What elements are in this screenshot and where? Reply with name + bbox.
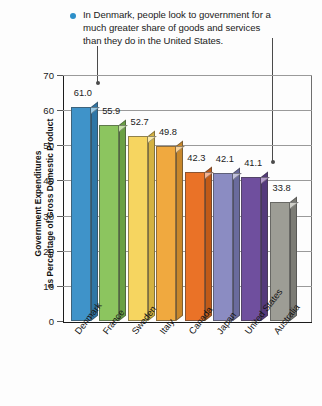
bullet-dot-icon [70,13,76,19]
y-axis-tick [57,286,63,287]
annotation-line-1: In Denmark, people look to government fo… [83,8,271,21]
bar-front-face [156,146,176,321]
y-axis-tick-label: 50 [43,140,54,151]
bar-value-label: 49.8 [159,127,177,137]
bar[interactable]: 42.3 [185,172,205,321]
y-axis-tick-label: 30 [43,210,54,221]
y-axis-title: Government Expenditures as Percentage of… [33,96,56,311]
y-axis-tick [57,180,63,181]
bar-value-label: 42.1 [216,154,234,164]
y-axis-tick [57,75,63,76]
y-axis-tick [57,251,63,252]
bar-value-label: 41.1 [244,158,262,168]
y-axis-tick-label: 70 [43,70,54,81]
bar-front-face [128,136,148,321]
annotation-text: In Denmark, people look to government fo… [83,8,271,48]
annotation-line-2: much greater share of goods and services [83,21,271,34]
bar[interactable]: 61.0 [71,107,91,321]
bar[interactable]: 49.8 [156,146,176,321]
y-axis-tick-label: 0 [49,316,54,327]
bar-value-label: 55.9 [102,106,120,116]
bar-side-face [148,130,155,321]
bar-side-face [233,168,240,321]
bar-front-face [71,107,91,321]
y-axis-title-line-1: Government Expenditures [33,96,45,311]
bar-front-face [213,173,233,321]
bar-front-face [99,125,119,321]
bar-side-face [119,119,126,321]
bar-side-face [205,167,212,321]
y-axis-tick [57,145,63,146]
y-axis-title-line-2: as Percentage of Gross Domestic Product [45,96,57,311]
bar-side-face [91,101,98,321]
y-axis-tick-label: 40 [43,175,54,186]
y-axis-tick [57,321,63,322]
chart-root: In Denmark, people look to government fo… [0,0,322,406]
y-axis-tick-label: 60 [43,105,54,116]
bar[interactable]: 52.7 [128,136,148,321]
bar-front-face [241,177,261,321]
annotation-line-3: than they do in the United States. [83,34,271,47]
y-axis-tick [57,216,63,217]
gridline [63,75,312,76]
bar-side-face [176,141,183,321]
bar-value-label: 33.8 [273,183,291,193]
y-axis-tick-label: 10 [43,280,54,291]
y-axis-tick [57,110,63,111]
bar-value-label: 52.7 [131,117,149,127]
bar[interactable]: 41.1 [241,177,261,321]
x-axis-line [63,322,312,323]
plot-area: 706050403020100 61.055.952.749.842.342.1… [63,75,312,323]
bar-value-label: 42.3 [187,153,205,163]
y-axis-tick-label: 20 [43,245,54,256]
bar[interactable]: 55.9 [99,125,119,321]
bar-front-face [185,172,205,321]
bar[interactable]: 42.1 [213,173,233,321]
gridline [63,110,312,111]
bar-value-label: 61.0 [74,88,92,98]
annotation-callout: In Denmark, people look to government fo… [70,8,312,48]
